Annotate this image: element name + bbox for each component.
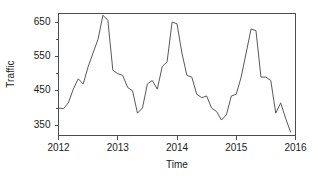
x-axis-title: Time [166,159,188,170]
chart-canvas: 350450550650 20122013201420152016 Traffi… [0,0,317,180]
y-tick-label-450: 450 [34,84,51,95]
y-tick-label-550: 550 [34,50,51,61]
y-tick-label-650: 650 [34,16,51,27]
traffic-time-series-chart: 350450550650 20122013201420152016 Traffi… [0,0,317,180]
plot-frame [59,14,296,136]
x-tick-label-2015: 2015 [225,142,248,153]
y-axis-title: Traffic [5,60,16,87]
x-tick-label-2014: 2014 [166,142,189,153]
x-axis-ticks [59,136,296,140]
x-tick-label-2013: 2013 [107,142,130,153]
traffic-series-line [59,15,291,132]
x-tick-label-2016: 2016 [284,142,307,153]
plot-border [59,14,296,136]
y-tick-label-350: 350 [34,119,51,130]
x-axis-tick-labels: 20122013201420152016 [47,142,307,153]
x-tick-label-2012: 2012 [47,142,70,153]
y-axis-tick-labels: 350450550650 [34,16,51,130]
